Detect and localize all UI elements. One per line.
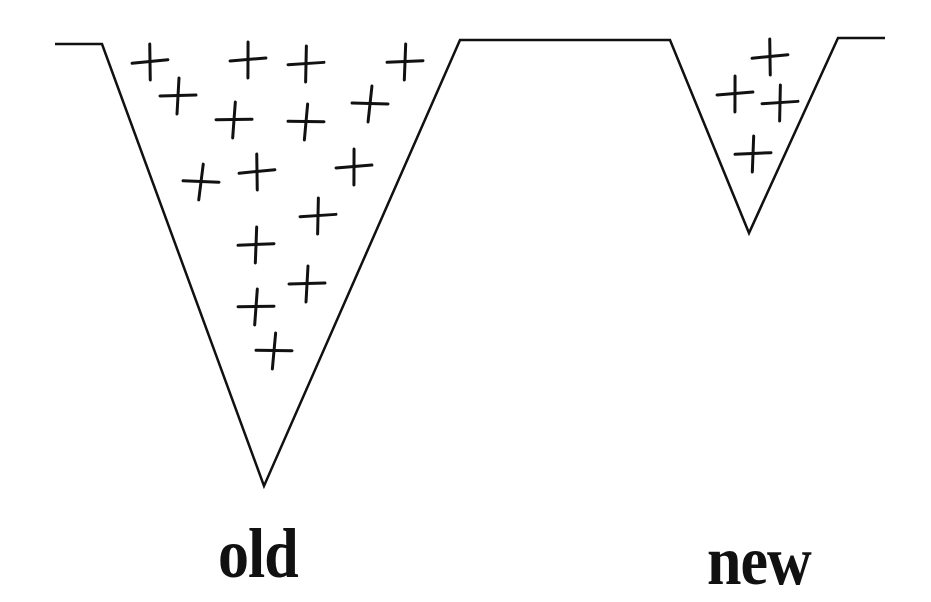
plus-icon — [299, 197, 336, 234]
old-well-charges — [131, 41, 424, 370]
plus-icon — [287, 103, 324, 140]
plus-icon — [287, 45, 324, 82]
plus-icon — [335, 148, 373, 186]
plus-icon — [387, 44, 424, 81]
plus-icon — [351, 85, 389, 123]
plus-icon — [238, 153, 276, 191]
plus-icon — [761, 84, 798, 121]
plus-icon — [716, 75, 754, 113]
new-well-label: new — [707, 526, 811, 595]
well-outline — [55, 38, 885, 486]
plus-icon — [216, 102, 253, 139]
plus-icon — [131, 43, 169, 81]
plus-icon — [735, 136, 772, 173]
old-well-label: old — [218, 519, 298, 588]
plus-icon — [289, 266, 325, 302]
plus-icon — [238, 289, 275, 326]
wells-diagram — [0, 0, 931, 602]
plus-icon — [182, 163, 220, 201]
plus-icon — [160, 78, 196, 114]
plus-icon — [255, 332, 292, 369]
plus-icon — [238, 227, 275, 264]
plus-icon — [751, 38, 789, 76]
plus-icon — [229, 41, 267, 79]
